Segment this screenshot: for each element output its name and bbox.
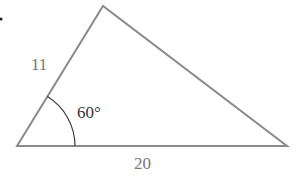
angle-label: 60° bbox=[77, 103, 101, 122]
triangle-figure: 11 20 60° bbox=[0, 0, 308, 176]
side-label-left: 11 bbox=[31, 55, 47, 74]
triangle-shape bbox=[17, 6, 287, 146]
side-label-base: 20 bbox=[134, 154, 151, 173]
bullet-dot bbox=[0, 17, 3, 20]
angle-arc bbox=[47, 97, 75, 146]
triangle-diagram: 11 20 60° bbox=[0, 0, 308, 176]
